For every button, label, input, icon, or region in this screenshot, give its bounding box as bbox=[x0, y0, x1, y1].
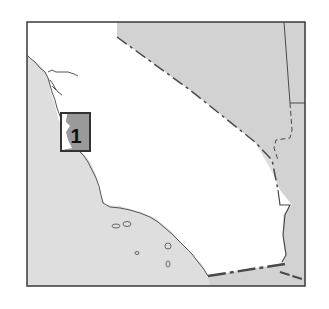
map-container: 1 bbox=[0, 0, 329, 309]
california-map: 1 bbox=[0, 0, 329, 309]
marker-label: 1 bbox=[70, 125, 81, 147]
marker-1[interactable]: 1 bbox=[61, 113, 90, 151]
